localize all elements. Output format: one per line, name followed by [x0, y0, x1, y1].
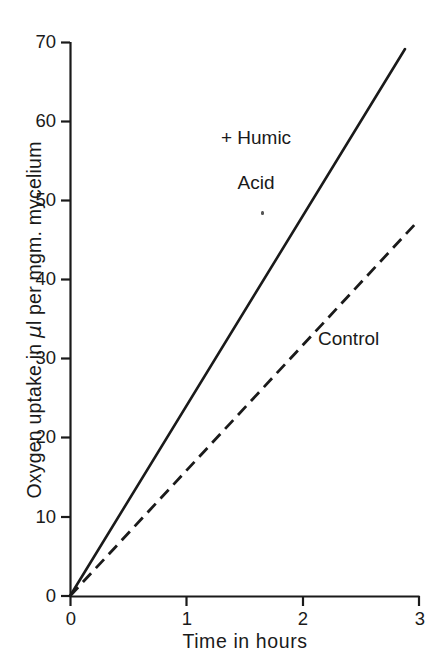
- y-axis-ticks: [61, 43, 70, 597]
- series-line-control: [70, 221, 418, 596]
- x-axis-title: Time in hours: [70, 630, 420, 653]
- y-tick-label-70: 70: [16, 31, 56, 53]
- y-axis-title: Oxygen uptake in µl per mgm. mycelium: [22, 60, 46, 580]
- y-axis-title-prefix: Oxygen uptake in: [23, 338, 45, 499]
- mu-symbol: µ: [22, 325, 46, 338]
- y-axis-title-suffix: l per mgm. mycelium: [23, 141, 45, 325]
- series-label-control: Control: [318, 328, 379, 350]
- x-tick-label-3: 3: [405, 608, 435, 630]
- series-label-humic-acid: + Humic Acid: [196, 105, 316, 217]
- x-tick-label-1: 1: [172, 608, 202, 630]
- figure-container: 70 60 50 40 30 20 10 0 0 1 2 3 Oxygen up…: [0, 0, 441, 662]
- series-label-humic-acid-line1: + Humic: [196, 127, 316, 149]
- series-label-humic-acid-line2: Acid: [196, 172, 316, 194]
- y-tick-label-0: 0: [16, 585, 56, 607]
- x-tick-label-2: 2: [288, 608, 318, 630]
- x-tick-label-0: 0: [56, 608, 86, 630]
